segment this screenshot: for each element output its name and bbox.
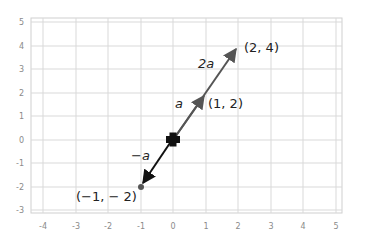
y-tick: 2 bbox=[19, 89, 24, 98]
y-tick: -3 bbox=[16, 206, 24, 215]
y-tick: 5 bbox=[19, 18, 24, 27]
x-tick: -3 bbox=[72, 222, 80, 231]
y-tick: 1 bbox=[19, 112, 24, 121]
y-axis-ticks: 5 4 3 2 1 0 -1 -2 -3 bbox=[16, 18, 24, 215]
label-vector-a: a bbox=[175, 96, 183, 111]
y-tick: -1 bbox=[16, 159, 24, 168]
x-tick: 3 bbox=[268, 222, 273, 231]
x-axis-ticks: -4 -3 -2 -1 0 1 2 3 4 5 bbox=[39, 222, 339, 231]
point-marker-neg1-neg2 bbox=[138, 184, 144, 190]
vector-plot: 5 4 3 2 1 0 -1 -2 -3 -4 -3 -2 -1 0 1 2 3… bbox=[0, 0, 365, 246]
y-tick: 4 bbox=[19, 42, 24, 51]
label-point-1-2: (1, 2) bbox=[208, 96, 243, 111]
label-vector-2a: 2a bbox=[198, 56, 214, 71]
y-tick: 3 bbox=[19, 65, 24, 74]
label-point-2-4: (2, 4) bbox=[244, 40, 279, 55]
x-tick: 4 bbox=[300, 222, 305, 231]
x-tick: 2 bbox=[235, 222, 240, 231]
x-tick: 1 bbox=[203, 222, 208, 231]
label-point-neg1-neg2: (−1, − 2) bbox=[76, 189, 137, 204]
x-tick: 0 bbox=[170, 222, 175, 231]
x-tick: -2 bbox=[104, 222, 112, 231]
x-tick: 5 bbox=[333, 222, 338, 231]
label-vector-neg-a: −a bbox=[131, 148, 150, 163]
y-tick: 0 bbox=[19, 136, 24, 145]
y-tick: -2 bbox=[16, 183, 24, 192]
x-tick: -4 bbox=[39, 222, 47, 231]
x-tick: -1 bbox=[137, 222, 145, 231]
